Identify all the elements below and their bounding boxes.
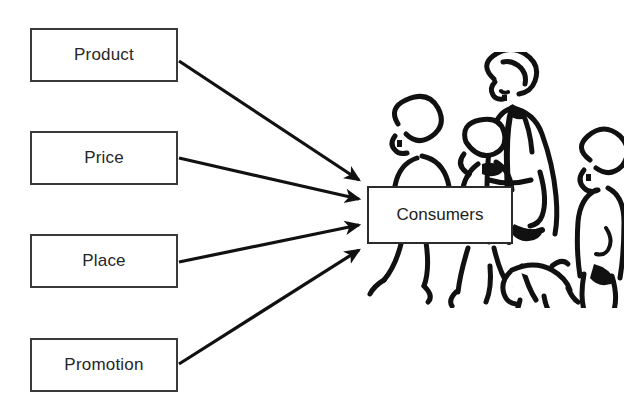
node-consumers-label: Consumers bbox=[397, 205, 484, 225]
arrow-promotion-to-consumers bbox=[179, 250, 359, 364]
diagram-canvas: Product Price Place Promotion Consumers bbox=[0, 0, 636, 415]
arrow-price-to-consumers bbox=[179, 158, 359, 199]
arrow-product-to-consumers bbox=[179, 61, 359, 180]
connector-arrows bbox=[0, 0, 636, 415]
arrow-place-to-consumers bbox=[179, 225, 359, 262]
node-consumers[interactable]: Consumers bbox=[367, 186, 513, 244]
